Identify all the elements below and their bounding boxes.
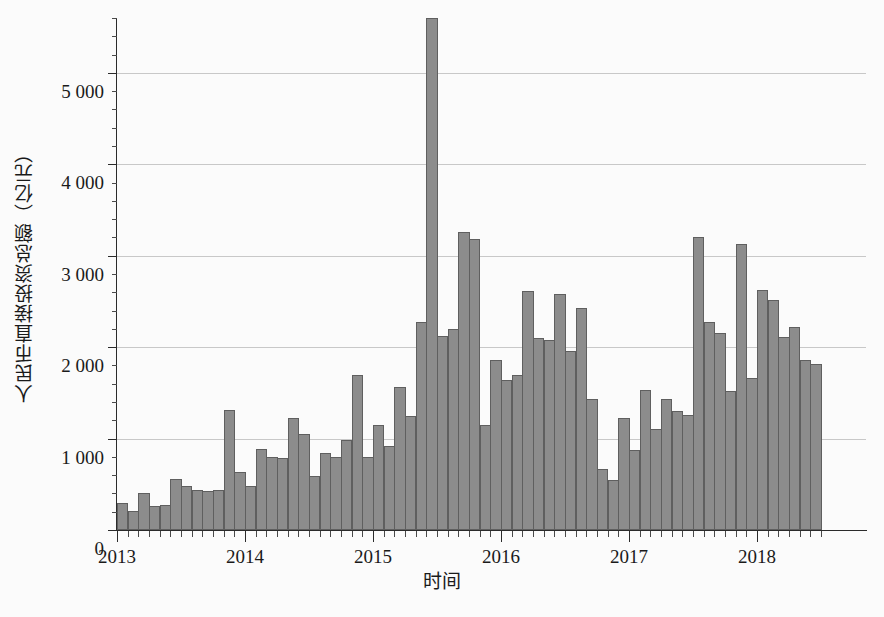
y-tick-label: 4 000 [1, 173, 104, 192]
y-tick-label: 2 000 [1, 356, 104, 375]
plot-area: 01 0002 0003 0004 0005 000 2013201420152… [117, 18, 866, 530]
x-tick-label: 2016 [482, 546, 520, 568]
y-tick-major [108, 164, 117, 165]
x-axis-title: 时间 [0, 566, 884, 593]
y-tick-label: 3 000 [1, 264, 104, 283]
x-tick-label: 2014 [226, 546, 264, 568]
y-tick-major [108, 73, 117, 74]
y-tick-major [108, 347, 117, 348]
y-tick-minor [112, 18, 117, 19]
y-tick-major [108, 439, 117, 440]
figure-caption [0, 604, 884, 617]
figure-container: 人民币直接投资总额（亿元） 01 0002 0003 0004 0005 000… [0, 0, 884, 617]
y-tick-label: 1 000 [1, 447, 104, 466]
y-tick-label: 0 [1, 539, 104, 558]
y-tick-major [108, 530, 117, 531]
x-tick-label: 2017 [610, 546, 648, 568]
x-tick-label: 2013 [98, 546, 136, 568]
y-tick-label: 5 000 [1, 81, 104, 100]
x-tick-label: 2015 [354, 546, 392, 568]
y-axis-tick-labels: 01 0002 0003 0004 0005 000 [117, 36, 866, 548]
y-tick-major [108, 256, 117, 257]
x-tick-label: 2018 [738, 546, 776, 568]
